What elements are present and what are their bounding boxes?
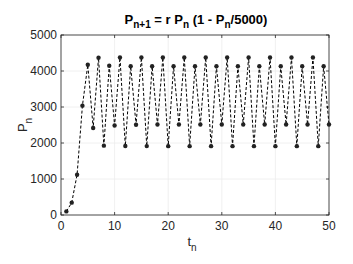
data-point [300, 64, 304, 68]
y-tick-label: 3000 [30, 100, 57, 114]
grid-lines [61, 35, 329, 215]
y-tick-label: 0 [50, 208, 57, 222]
data-point [262, 122, 266, 126]
data-point [75, 173, 79, 177]
data-point [102, 143, 106, 147]
data-point [273, 144, 277, 148]
data-point [316, 144, 320, 148]
data-point [112, 123, 116, 127]
y-axis-label: Pn [15, 118, 34, 132]
x-tick-label: 20 [162, 219, 176, 233]
data-point [134, 123, 138, 127]
data-point [177, 122, 181, 126]
data-point [268, 55, 272, 59]
x-axis-label: tn [187, 234, 196, 253]
data-point [198, 122, 202, 126]
data-point [295, 144, 299, 148]
data-series [64, 55, 331, 213]
series-line [66, 58, 329, 212]
data-point [155, 122, 159, 126]
chart: 01020304050010002000300040005000 Pn+1 = … [0, 0, 353, 264]
data-point [145, 144, 149, 148]
data-point [321, 64, 325, 68]
data-point [107, 64, 111, 68]
data-point [91, 126, 95, 130]
x-tick-label: 40 [269, 219, 283, 233]
data-point [70, 200, 74, 204]
data-point [161, 55, 165, 59]
data-point [182, 55, 186, 59]
plot-area [61, 35, 329, 215]
data-point [289, 55, 293, 59]
data-point [236, 64, 240, 68]
data-point [96, 55, 100, 59]
y-tick-label: 2000 [30, 136, 57, 150]
data-point [128, 64, 132, 68]
data-point [171, 64, 175, 68]
data-point [64, 209, 68, 213]
x-tick-label: 10 [108, 219, 122, 233]
y-tick-label: 4000 [30, 64, 57, 78]
data-point [230, 144, 234, 148]
data-point [123, 144, 127, 148]
data-point [305, 122, 309, 126]
data-point [118, 55, 122, 59]
data-point [241, 122, 245, 126]
data-point [187, 144, 191, 148]
chart-title: Pn+1 = r Pn (1 - Pn/5000) [125, 12, 268, 30]
data-point [166, 144, 170, 148]
x-tick-label: 30 [215, 219, 229, 233]
data-point [327, 122, 331, 126]
data-point [220, 122, 224, 126]
data-point [139, 55, 143, 59]
data-point [284, 122, 288, 126]
x-tick-label: 0 [58, 219, 65, 233]
data-point [252, 144, 256, 148]
data-point [204, 55, 208, 59]
data-point [193, 64, 197, 68]
y-tick-label: 1000 [30, 172, 57, 186]
data-point [214, 64, 218, 68]
data-point [257, 64, 261, 68]
data-point [150, 64, 154, 68]
x-tick-label: 50 [322, 219, 336, 233]
data-point [86, 63, 90, 67]
data-point [209, 144, 213, 148]
data-point [279, 64, 283, 68]
data-point [246, 55, 250, 59]
y-tick-label: 5000 [30, 28, 57, 42]
data-point [311, 55, 315, 59]
data-point [225, 55, 229, 59]
data-point [80, 103, 84, 107]
